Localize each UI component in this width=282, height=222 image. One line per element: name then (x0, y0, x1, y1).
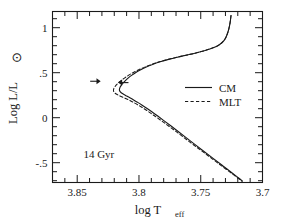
legend-label-cm: CM (219, 82, 236, 94)
y-axis-title: Log L/L (6, 82, 20, 124)
plot-canvas: 3.853.83.753.7 1.50-.5 14 Gyr CMMLT log … (0, 0, 282, 222)
x-axis-title: log T (135, 203, 162, 217)
x-tick-label: 3.85 (68, 186, 88, 198)
legend-label-mlt: MLT (219, 96, 241, 108)
y-axis-tick-labels: 1.50-.5 (36, 22, 48, 169)
x-axis-tick-labels: 3.853.83.753.7 (68, 186, 270, 198)
arrow-cm-turnoff (118, 80, 128, 86)
y-tick-label: 0 (42, 112, 48, 124)
plot-annotations: 14 Gyr (83, 78, 128, 160)
x-tick-label: 3.75 (191, 186, 211, 198)
x-tick-label: 3.8 (132, 186, 146, 198)
hr-diagram-figure: 3.853.83.753.7 1.50-.5 14 Gyr CMMLT log … (0, 0, 282, 222)
y-axis-title-subscript: ⊙ (10, 52, 24, 63)
arrow-mlt-turnoff-head (96, 78, 100, 84)
arrow-mlt-turnoff (90, 78, 101, 84)
y-tick-label: 1 (42, 22, 48, 34)
y-tick-label: .5 (39, 67, 48, 79)
x-tick-label: 3.7 (256, 186, 270, 198)
plot-legend: CMMLT (185, 82, 241, 108)
arrow-cm-turnoff-head (118, 80, 122, 86)
y-tick-label: -.5 (36, 157, 48, 169)
age-label: 14 Gyr (83, 148, 114, 160)
x-axis-title-subscript: eff (175, 209, 184, 219)
